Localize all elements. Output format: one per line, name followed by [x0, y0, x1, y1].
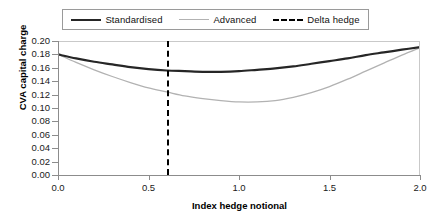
x-tick-label: 0.5 — [129, 183, 169, 193]
x-axis-title: Index hedge notional — [58, 200, 421, 211]
plot-area — [58, 41, 420, 175]
dashed-line-icon — [273, 19, 303, 21]
x-tick-mark — [420, 175, 421, 180]
y-tick-label: 0.14 — [22, 76, 50, 86]
y-tick-label: 0.20 — [22, 36, 50, 46]
legend-item-delta-hedge: Delta hedge — [273, 14, 359, 25]
x-tick-label: 0.0 — [38, 183, 78, 193]
chart-figure: Standardised Advanced Delta hedge CVA ca… — [0, 0, 435, 219]
solid-dark-line-icon — [71, 19, 101, 21]
y-tick-label: 0.12 — [22, 90, 50, 100]
x-tick-label: 1.5 — [310, 183, 350, 193]
series-line-standardised — [58, 47, 420, 72]
y-axis-line — [58, 41, 59, 176]
y-tick-label: 0.02 — [22, 157, 50, 167]
x-tick-mark — [149, 175, 150, 180]
y-tick-label: 0.10 — [22, 103, 50, 113]
legend-label-standardised: Standardised — [105, 14, 162, 25]
y-tick-label: 0.16 — [22, 63, 50, 73]
legend-label-advanced: Advanced — [213, 14, 256, 25]
y-tick-label: 0.06 — [22, 130, 50, 140]
delta-hedge-vline — [167, 41, 169, 175]
x-tick-mark — [330, 175, 331, 180]
x-tick-mark — [239, 175, 240, 180]
plot-top-border — [58, 41, 420, 42]
plot-right-border — [419, 41, 420, 175]
y-tick-label: 0.00 — [22, 170, 50, 180]
y-tick-label: 0.08 — [22, 116, 50, 126]
chart-curves — [58, 41, 420, 175]
y-tick-label: 0.18 — [22, 49, 50, 59]
y-tick-label: 0.04 — [22, 143, 50, 153]
legend-item-standardised: Standardised — [71, 14, 162, 25]
solid-light-line-icon — [179, 19, 209, 20]
legend-label-delta-hedge: Delta hedge — [307, 14, 359, 25]
x-tick-label: 1.0 — [219, 183, 259, 193]
chart-legend: Standardised Advanced Delta hedge — [62, 9, 369, 30]
legend-item-advanced: Advanced — [179, 14, 256, 25]
x-tick-label: 2.0 — [400, 183, 435, 193]
x-tick-mark — [58, 175, 59, 180]
